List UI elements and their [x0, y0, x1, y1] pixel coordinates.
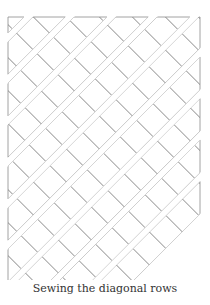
quilt-square	[207, 75, 210, 108]
quilt-square	[0, 269, 5, 280]
figure-caption: Sewing the diagonal rows	[0, 282, 210, 295]
quilt-diagram	[0, 0, 210, 280]
